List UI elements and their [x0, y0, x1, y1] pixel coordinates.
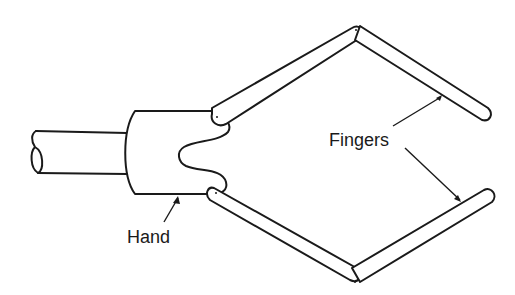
- gripper-diagram: Hand Fingers: [0, 0, 515, 295]
- hand-label-group: Hand: [127, 196, 180, 247]
- upper-finger-distal: [355, 26, 491, 120]
- hand-label: Hand: [127, 227, 170, 247]
- lower-finger-distal: [352, 189, 494, 283]
- fingers-label: Fingers: [329, 130, 389, 150]
- fingers-label-group: Fingers: [329, 95, 461, 202]
- hand-arrowhead-icon: [173, 196, 180, 204]
- lower-finger-proximal: [207, 188, 361, 281]
- upper-finger-proximal: [212, 27, 364, 126]
- arm: [32, 131, 127, 174]
